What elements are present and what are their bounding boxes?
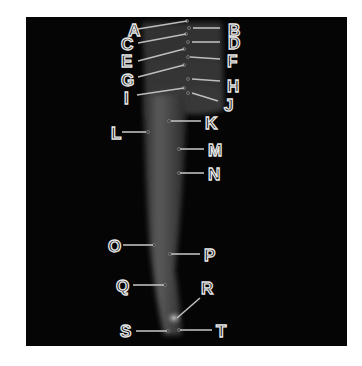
label-l: L	[111, 124, 121, 143]
label-r: R	[201, 279, 213, 298]
callout-s: S	[120, 322, 167, 341]
callout-r: R	[177, 279, 213, 318]
callout-t: T	[180, 322, 227, 341]
callout-p: P	[171, 246, 215, 265]
label-o: O	[108, 237, 121, 256]
label-q: Q	[116, 277, 129, 296]
label-j: J	[224, 96, 233, 115]
label-f: F	[227, 52, 237, 71]
pointer-line	[177, 298, 200, 318]
specimen-figure: ABCDEFGHIJKLMNOPQRST	[0, 0, 362, 366]
label-k: K	[205, 114, 218, 133]
callout-n: N	[180, 165, 220, 184]
label-h: H	[227, 77, 239, 96]
label-n: N	[208, 165, 220, 184]
label-p: P	[204, 246, 215, 265]
callout-l: L	[111, 124, 146, 143]
callout-m: M	[180, 141, 222, 160]
label-i: I	[124, 89, 129, 108]
label-m: M	[208, 141, 222, 160]
label-t: T	[216, 322, 227, 341]
label-e: E	[121, 52, 132, 71]
label-s: S	[120, 322, 131, 341]
label-g: G	[121, 71, 134, 90]
callout-o: O	[108, 237, 153, 256]
label-d: D	[228, 34, 240, 53]
